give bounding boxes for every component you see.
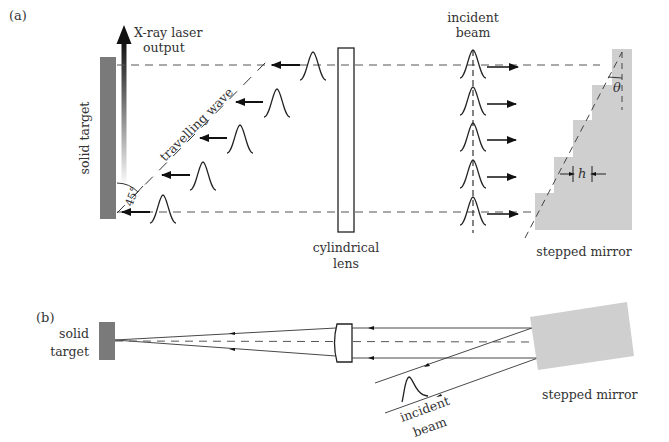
ray-arrow-3 xyxy=(368,326,374,330)
lens-label-2: lens xyxy=(333,256,359,271)
travelling-wave-label: travelling wave xyxy=(157,85,237,165)
solid-target-label-b-2: target xyxy=(50,344,89,359)
angle-label: 45° xyxy=(123,185,142,208)
theta-label: θ xyxy=(613,80,621,95)
incident-ray-upper xyxy=(375,328,532,383)
incident-pulses xyxy=(460,50,518,225)
solid-target-a xyxy=(100,57,116,219)
cylindrical-lens-a xyxy=(338,48,354,232)
ray-lower-converging xyxy=(115,340,336,356)
ray-arrow-1 xyxy=(229,332,235,335)
incident-ray-lower xyxy=(385,358,538,413)
cylindrical-lens-b xyxy=(335,324,353,362)
travelling-pulses xyxy=(122,52,326,223)
stepped-mirror-label-a: stepped mirror xyxy=(536,244,632,259)
solid-target-b xyxy=(99,322,115,360)
stepped-mirror-a xyxy=(535,49,632,230)
panel-b-label: (b) xyxy=(36,310,54,325)
stepped-mirror-label-b: stepped mirror xyxy=(542,387,638,402)
xray-output-arrow-icon xyxy=(117,25,132,44)
diagram-canvas: (a) solid target X-ray laser output trav… xyxy=(0,0,669,442)
ray-upper-converging xyxy=(115,328,336,340)
incident-label-1: incident xyxy=(447,10,499,25)
panel-a-label: (a) xyxy=(9,8,27,23)
stepped-mirror-b xyxy=(530,302,634,370)
incident-label-2: beam xyxy=(456,25,491,40)
h-label: h xyxy=(578,166,586,181)
lens-label-1: cylindrical xyxy=(313,240,380,255)
xray-output-beam xyxy=(122,42,127,187)
xray-output-label-1: X-ray laser xyxy=(134,25,202,40)
optical-axis-b xyxy=(115,341,533,342)
ray-arrow-4 xyxy=(368,356,374,360)
solid-target-label-a: solid target xyxy=(77,102,92,175)
incident-pulse-b xyxy=(402,377,428,402)
xray-output-label-2: output xyxy=(143,40,185,55)
solid-target-label-b-1: solid xyxy=(59,326,89,341)
